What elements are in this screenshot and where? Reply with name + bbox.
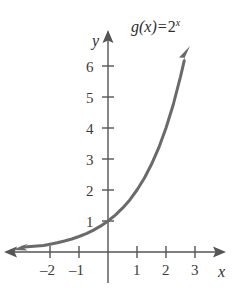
x-tick-label-2: 2 — [162, 263, 170, 278]
y-tick-label-2: 2 — [86, 184, 94, 199]
y-axis-label: y — [92, 33, 99, 49]
y-tick-label-5: 5 — [86, 91, 94, 106]
x-tick-label-minus2: –2 — [40, 263, 55, 278]
y-tick-label-3: 3 — [86, 153, 94, 168]
function-base: 2 — [168, 18, 176, 35]
x-tick-label-1: 1 — [133, 263, 141, 278]
function-equals-sign: = — [157, 18, 168, 35]
y-tick-label-4: 4 — [86, 122, 94, 137]
exponential-curve — [22, 61, 184, 248]
graph-canvas — [0, 0, 232, 291]
x-tick-label-minus1: –1 — [69, 263, 84, 278]
function-exponent: x — [176, 17, 180, 28]
function-equation-label: g(x)=2x — [131, 18, 180, 35]
x-axis-label: x — [218, 264, 225, 280]
x-tick-label-3: 3 — [191, 263, 199, 278]
exponential-function-figure: 1 2 3 4 5 6 –2 –1 1 2 3 x y g(x)=2x — [0, 0, 232, 291]
function-name-part: g(x) — [131, 18, 157, 35]
y-tick-label-1: 1 — [86, 215, 94, 230]
y-tick-label-6: 6 — [86, 60, 94, 75]
